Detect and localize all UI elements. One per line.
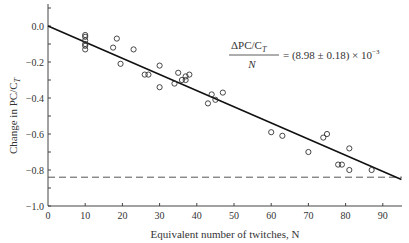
axes bbox=[48, 4, 402, 206]
slope-annotation: ΔPC/CT N = (8.98 ± 0.18) × 10−3 bbox=[229, 39, 380, 70]
y-tick-label: −0.2 bbox=[26, 57, 44, 68]
data-point bbox=[157, 85, 162, 90]
x-tick-label: 80 bbox=[341, 210, 351, 221]
annotation-denominator: N bbox=[247, 58, 256, 70]
data-point bbox=[369, 167, 374, 172]
data-point bbox=[83, 47, 88, 52]
x-tick-label: 60 bbox=[266, 210, 276, 221]
data-point bbox=[347, 146, 352, 151]
annotation-value: = (8.98 ± 0.18) × 10−3 bbox=[283, 48, 380, 62]
data-point bbox=[183, 77, 188, 82]
x-tick-label: 10 bbox=[80, 210, 90, 221]
x-tick-label: 90 bbox=[378, 210, 388, 221]
data-point bbox=[176, 70, 181, 75]
y-axis-label: Change in PC/CT bbox=[7, 77, 22, 154]
x-tick-label: 20 bbox=[117, 210, 127, 221]
data-point bbox=[209, 92, 214, 97]
data-point bbox=[114, 36, 119, 41]
data-point bbox=[306, 149, 311, 154]
x-tick-label: 0 bbox=[46, 210, 51, 221]
x-tick-label: 70 bbox=[303, 210, 313, 221]
data-point bbox=[111, 45, 116, 50]
x-tick-label: 40 bbox=[192, 210, 202, 221]
data-point bbox=[205, 101, 210, 106]
data-point bbox=[269, 130, 274, 135]
annotation-numerator: ΔPC/CT bbox=[231, 39, 267, 54]
data-point bbox=[157, 63, 162, 68]
x-tick-label: 50 bbox=[229, 210, 239, 221]
y-tick-label: −0.6 bbox=[26, 129, 44, 140]
data-point bbox=[280, 133, 285, 138]
data-point bbox=[131, 47, 136, 52]
y-tick-label: 0.0 bbox=[32, 21, 45, 32]
y-tick-label: −1.0 bbox=[26, 201, 44, 212]
data-point bbox=[347, 167, 352, 172]
x-tick-label: 30 bbox=[155, 210, 165, 221]
data-point bbox=[146, 72, 151, 77]
data-point bbox=[118, 61, 123, 66]
data-point bbox=[220, 90, 225, 95]
chart: 01020304050607080900.0−0.2−0.4−0.6−0.8−1… bbox=[0, 0, 409, 243]
y-tick-label: −0.4 bbox=[26, 93, 44, 104]
data-point bbox=[324, 131, 329, 136]
data-point bbox=[339, 162, 344, 167]
x-axis-label: Equivalent number of twitches, N bbox=[151, 228, 300, 240]
y-tick-label: −0.8 bbox=[26, 165, 44, 176]
